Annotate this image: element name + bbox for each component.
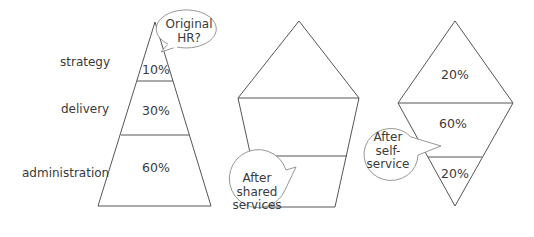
percent-self-service-strategy: 20%	[430, 68, 480, 82]
row-label-delivery: delivery	[61, 102, 109, 116]
row-label-administration: administration	[22, 166, 109, 180]
percent-original-strategy: 10%	[131, 63, 181, 77]
callout-after-shared-services-text: After shared services	[232, 172, 282, 213]
callout-after-self-service-text: After self- service	[364, 131, 412, 172]
percent-original-delivery: 30%	[131, 104, 181, 118]
percent-self-service-administration: 20%	[430, 167, 480, 181]
callout-original-hr-text: Original HR?	[162, 18, 216, 45]
row-label-strategy: strategy	[60, 55, 110, 69]
percent-original-administration: 60%	[131, 161, 181, 175]
percent-self-service-delivery: 60%	[428, 117, 478, 131]
